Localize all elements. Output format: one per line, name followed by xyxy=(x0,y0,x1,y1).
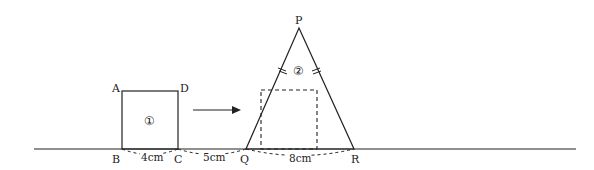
label-q: Q xyxy=(240,153,249,166)
label-triangle-2: ② xyxy=(293,64,304,78)
label-d: D xyxy=(180,82,189,95)
label-p: P xyxy=(295,14,303,27)
measure-qr: 8cm xyxy=(289,152,312,164)
label-square-1: ① xyxy=(144,114,155,128)
label-c: C xyxy=(174,153,182,166)
label-a: A xyxy=(111,82,121,95)
label-b: B xyxy=(112,153,120,166)
measure-bc: 4cm xyxy=(141,151,164,163)
dashed-square xyxy=(261,90,317,149)
arrow-right-icon xyxy=(193,106,241,114)
geometry-diagram: A D B C P Q R ① ② 4cm 5cm 8cm xyxy=(0,0,594,170)
triangle-pqr xyxy=(246,28,354,149)
measure-cq: 5cm xyxy=(203,151,226,163)
label-r: R xyxy=(351,153,360,166)
